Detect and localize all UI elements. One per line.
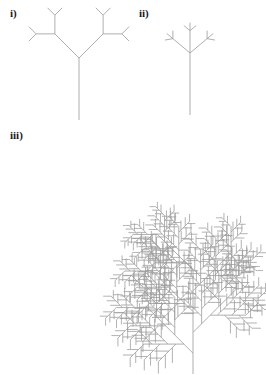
tree-branch [157, 290, 160, 293]
tree-branch [225, 315, 228, 318]
tree-branch [165, 351, 169, 355]
tree-branch [131, 273, 133, 275]
tree-branch [116, 301, 118, 303]
tree-branch [237, 292, 240, 295]
tree-branch [119, 275, 121, 277]
tree-branch [175, 302, 178, 305]
tree-branch [177, 295, 185, 303]
tree-branch [228, 276, 231, 279]
tree-branch [164, 287, 167, 290]
tree-branch [235, 260, 237, 262]
tree-branch [137, 278, 139, 280]
tree-branch [140, 251, 142, 253]
tree-branch [217, 312, 220, 315]
tree-branch [243, 301, 246, 304]
tree-branch [225, 260, 227, 262]
tree-branch [247, 323, 250, 326]
tree-branch [144, 241, 146, 243]
tree-branch [146, 320, 149, 323]
tree-branch [137, 238, 139, 240]
tree-branch [120, 333, 122, 335]
tree-branch [160, 298, 163, 301]
tree-branch [199, 298, 202, 301]
tree-branch [154, 294, 157, 297]
tree-branch [179, 242, 181, 244]
tree-branch [223, 229, 225, 231]
tree-branch [193, 283, 201, 291]
tree-branch [177, 263, 180, 266]
tree-branch [149, 289, 152, 292]
tree-branch [149, 253, 151, 255]
tree-branch [138, 224, 140, 226]
tree-branch [114, 308, 116, 310]
tree-branch [184, 259, 186, 261]
tree-branch [140, 226, 142, 228]
tree-branch [256, 303, 258, 305]
tree-branch [159, 298, 162, 301]
tree-branch [108, 314, 110, 316]
tree-branch [142, 292, 144, 294]
tree-branch [210, 232, 212, 234]
tree-branch [154, 254, 156, 256]
tree-branch [167, 33, 173, 38]
tree-branch [124, 310, 126, 312]
tree-branch [151, 328, 154, 331]
tree-branch [130, 236, 132, 238]
tree-branch [152, 329, 155, 332]
tree-branch [145, 277, 148, 280]
tree-branch [234, 258, 236, 260]
tree-branch [240, 259, 242, 261]
tree-branch [255, 300, 257, 302]
tree-branch [96, 8, 103, 15]
figure-label-iii: iii) [10, 130, 23, 141]
tree-branch [165, 249, 167, 251]
tree-branch [134, 231, 136, 233]
tree-branch [147, 287, 149, 289]
tree-branch [189, 238, 191, 240]
tree-branch [150, 265, 152, 267]
tree-branch [170, 255, 172, 257]
tree-branch [174, 286, 177, 289]
tree-branch [229, 245, 231, 247]
tree-branch [162, 316, 165, 319]
tree-branch [158, 246, 160, 248]
tree-branch [165, 260, 167, 262]
tree-branch [169, 244, 171, 246]
tree-branch [121, 273, 123, 275]
tree-branch [171, 268, 174, 271]
tree-branch [178, 314, 181, 317]
tree-branch [229, 258, 231, 260]
tree-branch [217, 271, 219, 273]
tree-branch [192, 268, 195, 271]
tree-branch [211, 279, 214, 282]
tree-branch [203, 264, 206, 267]
tree-branch [255, 255, 257, 257]
tree-branch [162, 274, 165, 277]
tree-branch [158, 306, 161, 309]
tree-branch [204, 285, 207, 288]
tree-branch [172, 211, 174, 213]
tree-branch [158, 220, 160, 222]
tree-branch [152, 254, 154, 256]
tree-branch [252, 266, 254, 268]
tree-branch [165, 317, 168, 320]
tree-branch [219, 290, 222, 293]
tree-branch [203, 252, 205, 254]
tree-branch [187, 286, 190, 289]
tree-branch [227, 289, 236, 298]
tree-branch [228, 252, 230, 254]
tree-branch [221, 227, 223, 229]
tree-branch [150, 234, 152, 236]
tree-branch [162, 295, 165, 298]
tree-branch [158, 311, 161, 314]
tree-branch [229, 235, 231, 237]
figure-label-ii: ii) [139, 8, 149, 19]
tree-branch [143, 274, 146, 277]
tree-branch [171, 324, 174, 327]
tree-branch [154, 243, 156, 245]
tree-branch [140, 311, 142, 313]
tree-branch [143, 290, 146, 293]
tree-branch [216, 260, 224, 268]
tree-branch [193, 292, 196, 295]
tree-branch [142, 308, 144, 310]
